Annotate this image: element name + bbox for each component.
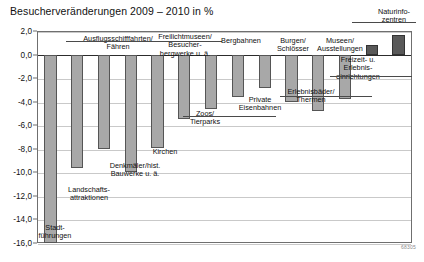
gridline	[38, 32, 411, 33]
chart-figure: Besucherveränderungen 2009 – 2010 in % 2…	[0, 0, 424, 262]
gridline	[38, 150, 411, 151]
bar-category-label: Freilichtmuseen/ Besucher- bergwerke u. …	[156, 33, 214, 58]
label-leader-line	[280, 96, 372, 97]
bar	[71, 55, 83, 168]
bar-category-label: Burgen/ Schlösser	[272, 37, 314, 54]
gridline	[38, 103, 411, 104]
chart-title: Besucherveränderungen 2009 – 2010 in %	[10, 5, 213, 17]
gridline	[38, 173, 411, 174]
y-axis-tick-mark	[33, 78, 37, 79]
y-axis-tick-mark	[33, 148, 37, 149]
y-axis-tick-label: -14,0	[0, 215, 32, 224]
y-axis-tick-mark	[33, 54, 37, 55]
bar-category-label: Kirchen	[148, 148, 182, 156]
bar	[232, 55, 244, 97]
y-axis-tick-mark	[33, 125, 37, 126]
bar-category-label: Freizeit- u. Erlebnis- einrichtungen	[332, 56, 384, 81]
gridline	[38, 126, 411, 127]
label-leader-line	[183, 116, 276, 117]
y-axis-tick-label: -2,0	[0, 74, 32, 83]
bar	[125, 55, 137, 173]
gridline	[38, 244, 411, 245]
y-axis-tick-label: -8,0	[0, 144, 32, 153]
bar	[151, 55, 163, 148]
y-axis-tick-mark	[33, 219, 37, 220]
bar-category-label: Bergbahnen	[218, 37, 264, 45]
y-axis-tick-label: -16,0	[0, 239, 32, 248]
bar	[205, 55, 217, 109]
bar	[392, 35, 404, 55]
y-axis-tick-label: -10,0	[0, 168, 32, 177]
y-axis-tick-mark	[33, 31, 37, 32]
gridline	[38, 220, 411, 221]
y-axis-tick-mark	[33, 195, 37, 196]
label-leader-line	[330, 76, 412, 77]
bar	[98, 55, 110, 149]
y-axis-tick-mark	[33, 243, 37, 244]
bar	[44, 55, 56, 243]
y-axis-tick-label: 0,0	[0, 50, 32, 59]
bar-category-label: Museen/ Ausstellungen	[312, 37, 368, 54]
bar-category-label: Zoos/ Tierparks	[186, 110, 224, 127]
y-axis-tick-label: -6,0	[0, 121, 32, 130]
source-note: 68305	[401, 244, 416, 250]
y-axis-tick-label: -4,0	[0, 97, 32, 106]
bar-category-label: Landschafts- attraktionen	[63, 186, 115, 203]
y-axis-tick-mark	[33, 172, 37, 173]
bar-category-label: Denkmäler/hist. Bauwerke u. ä.	[106, 162, 164, 179]
label-leader-line	[352, 22, 416, 23]
y-axis-tick-label: 2,0	[0, 27, 32, 36]
bar-category-label: Private Eisenbahnen	[238, 96, 282, 113]
bar-category-label: Stadt- führungen	[32, 224, 78, 241]
bar	[259, 55, 271, 88]
bar-category-label: Ausflugsschifffahrten/ Fähren	[72, 35, 164, 52]
label-leader-line	[152, 41, 222, 42]
y-axis-tick-mark	[33, 101, 37, 102]
y-axis-tick-label: -12,0	[0, 191, 32, 200]
